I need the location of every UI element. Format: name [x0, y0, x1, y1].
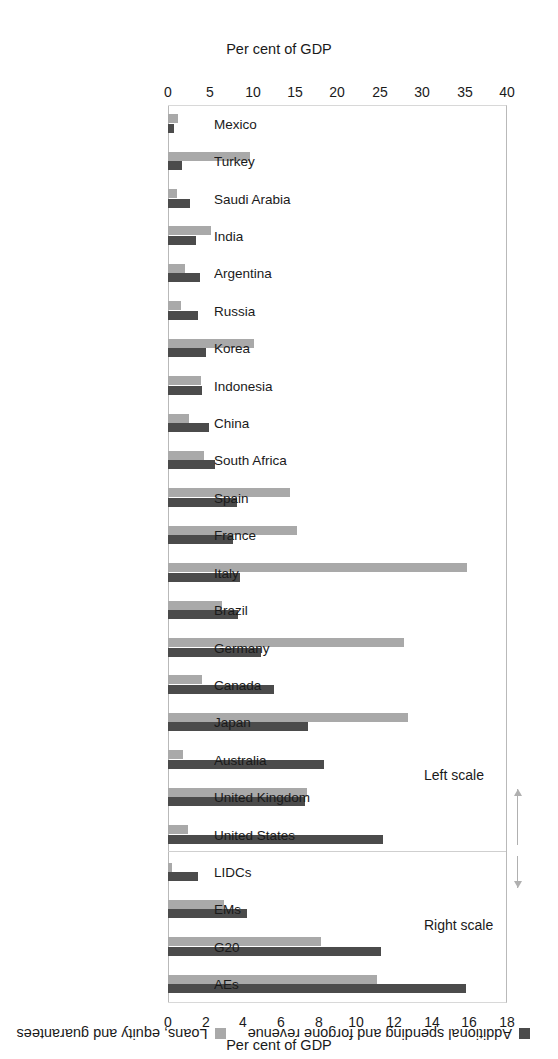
top-axis-title: Per cent of GDP — [0, 1037, 558, 1053]
bar-spending — [168, 236, 196, 245]
bar-loans — [168, 301, 181, 310]
bar-loans — [168, 189, 177, 198]
category-label: Brazil — [214, 604, 248, 618]
category-label: G20 — [214, 940, 240, 954]
bar-spending — [168, 386, 202, 395]
bar-loans — [168, 675, 202, 684]
bar-loans — [168, 264, 185, 273]
bar-spending — [168, 423, 209, 432]
bar-spending — [168, 872, 198, 881]
category-label: Turkey — [214, 155, 255, 169]
category-label: India — [214, 229, 243, 243]
category-label: Canada — [214, 678, 261, 692]
category-label: South Africa — [214, 454, 287, 468]
bar-spending — [168, 124, 174, 133]
axis-tick: 8 — [315, 1015, 323, 1029]
category-label: Russia — [214, 304, 255, 318]
category-label: EMs — [214, 903, 241, 917]
bar-loans — [168, 638, 404, 647]
category-label: Spain — [214, 491, 249, 505]
bar-spending — [168, 161, 182, 170]
bar-loans — [168, 937, 321, 946]
bar-spending — [168, 984, 466, 993]
category-label: Australia — [214, 753, 267, 767]
category-label: Argentina — [214, 267, 272, 281]
right-scale-note: Right scale — [424, 917, 544, 933]
chart-figure: Additional spending and forgone revenue … — [0, 0, 558, 1059]
bar-spending — [168, 273, 200, 282]
axis-tick: 35 — [457, 85, 473, 99]
axis-tick: 10 — [245, 85, 261, 99]
scale-group-divider — [168, 851, 506, 852]
bar-spending — [168, 348, 206, 357]
bar-loans — [168, 226, 211, 235]
axis-tick: 5 — [206, 85, 214, 99]
top-axis-ticks: 024681012141618 — [168, 1007, 507, 1029]
category-label: Saudi Arabia — [214, 192, 291, 206]
bar-loans — [168, 713, 408, 722]
bar-loans — [168, 975, 377, 984]
axis-tick: 0 — [164, 85, 172, 99]
bar-loans — [168, 863, 172, 872]
bar-spending — [168, 311, 198, 320]
bar-spending — [168, 947, 381, 956]
category-label: AEs — [214, 978, 239, 992]
category-label: Japan — [214, 716, 251, 730]
bottom-axis-title: Per cent of GDP — [0, 41, 558, 57]
axis-tick: 18 — [499, 1015, 515, 1029]
bar-loans — [168, 563, 467, 572]
category-label: China — [214, 417, 249, 431]
category-label: France — [214, 529, 256, 543]
category-label: United States — [214, 828, 295, 842]
axis-tick: 25 — [372, 85, 388, 99]
category-label: Germany — [214, 641, 270, 655]
axis-tick: 6 — [277, 1015, 285, 1029]
axis-tick: 20 — [330, 85, 346, 99]
category-label: United Kingdom — [214, 791, 310, 805]
bar-spending — [168, 199, 190, 208]
bar-loans — [168, 750, 183, 759]
bar-loans — [168, 376, 201, 385]
bar-loans — [168, 114, 178, 123]
bar-spending — [168, 460, 215, 469]
axis-tick: 12 — [386, 1015, 402, 1029]
category-label: LIDCs — [214, 866, 252, 880]
category-label: Korea — [214, 342, 250, 356]
axis-tick: 15 — [287, 85, 303, 99]
bottom-axis-ticks: 0510152025303540 — [168, 77, 507, 99]
axis-tick: 10 — [349, 1015, 365, 1029]
left-scale-arrow-icon — [513, 789, 522, 845]
category-label: Italy — [214, 566, 239, 580]
axis-tick: 0 — [164, 1015, 172, 1029]
axis-tick: 14 — [424, 1015, 440, 1029]
axis-tick: 4 — [239, 1015, 247, 1029]
category-label: Indonesia — [214, 379, 273, 393]
axis-tick: 2 — [202, 1015, 210, 1029]
left-scale-note: Left scale — [424, 767, 544, 783]
right-scale-arrow-icon — [513, 856, 522, 888]
axis-tick: 30 — [414, 85, 430, 99]
axis-tick: 16 — [462, 1015, 478, 1029]
bar-loans — [168, 414, 189, 423]
category-label: Mexico — [214, 117, 257, 131]
axis-tick: 40 — [499, 85, 515, 99]
bar-loans — [168, 451, 204, 460]
bar-loans — [168, 825, 188, 834]
